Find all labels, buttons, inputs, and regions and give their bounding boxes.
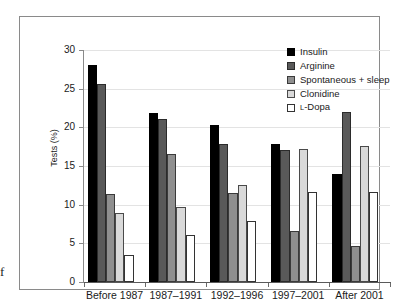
legend-label: L-Dopa bbox=[300, 102, 330, 113]
y-axis-tick-label: 30 bbox=[51, 45, 75, 55]
x-axis-category-label: Before 1987 bbox=[84, 289, 145, 301]
bar-arginine[interactable] bbox=[158, 119, 167, 282]
bar-l-dopa[interactable] bbox=[247, 221, 256, 282]
legend-label: Spontaneous + sleep bbox=[300, 75, 390, 85]
caption-fragment-text: f bbox=[0, 262, 14, 282]
bar-insulin[interactable] bbox=[88, 65, 97, 282]
chart-legend: InsulinArginineSpontaneous + sleepClonid… bbox=[287, 45, 397, 115]
bar-spontaneous-sleep[interactable] bbox=[290, 231, 299, 282]
x-axis-tick-mark bbox=[268, 283, 269, 287]
x-axis-category-label: 1987–1991 bbox=[145, 289, 206, 301]
x-axis-line bbox=[83, 282, 391, 283]
bar-l-dopa[interactable] bbox=[369, 192, 378, 282]
legend-swatch-icon bbox=[287, 62, 295, 70]
x-axis-category-label: 1997–2001 bbox=[268, 289, 329, 301]
x-axis-category-label: After 2001 bbox=[329, 289, 390, 301]
x-axis-tick-mark bbox=[84, 283, 85, 287]
bar-arginine[interactable] bbox=[97, 84, 106, 282]
bar-l-dopa[interactable] bbox=[308, 192, 317, 282]
legend-item-arginine[interactable]: Arginine bbox=[287, 59, 397, 72]
legend-item-clonidine[interactable]: Clonidine bbox=[287, 87, 397, 100]
bar-l-dopa[interactable] bbox=[186, 235, 195, 282]
x-axis-tick-mark bbox=[206, 283, 207, 287]
y-axis-tick-label: 25 bbox=[51, 84, 75, 94]
legend-item-l-dopa[interactable]: L-Dopa bbox=[287, 101, 397, 114]
bar-clonidine[interactable] bbox=[176, 207, 185, 282]
legend-label: Clonidine bbox=[300, 89, 340, 99]
bar-l-dopa[interactable] bbox=[124, 255, 133, 282]
bar-arginine[interactable] bbox=[219, 144, 228, 282]
legend-item-insulin[interactable]: Insulin bbox=[287, 45, 397, 58]
bar-spontaneous-sleep[interactable] bbox=[106, 194, 115, 282]
legend-swatch-icon bbox=[287, 76, 295, 84]
legend-swatch-icon bbox=[287, 104, 295, 112]
legend-item-spontaneous-sleep[interactable]: Spontaneous + sleep bbox=[287, 73, 397, 86]
bar-insulin[interactable] bbox=[271, 144, 280, 282]
y-axis-tick-label: 10 bbox=[51, 200, 75, 210]
legend-label: Insulin bbox=[300, 47, 327, 57]
bar-group bbox=[206, 50, 267, 282]
bar-group bbox=[145, 50, 206, 282]
figure-frame: 302520151050 Tests (%) Before 19871987–1… bbox=[19, 16, 380, 290]
legend-label: Arginine bbox=[300, 61, 335, 71]
bar-spontaneous-sleep[interactable] bbox=[167, 154, 176, 282]
bar-clonidine[interactable] bbox=[238, 185, 247, 282]
x-axis-tick-mark bbox=[145, 283, 146, 287]
legend-swatch-icon bbox=[287, 48, 295, 56]
legend-swatch-icon bbox=[287, 90, 295, 98]
bar-spontaneous-sleep[interactable] bbox=[351, 246, 360, 282]
y-axis-title: Tests (%) bbox=[49, 113, 59, 183]
x-axis-tick-mark bbox=[390, 283, 391, 287]
bar-insulin[interactable] bbox=[210, 125, 219, 282]
bar-clonidine[interactable] bbox=[360, 146, 369, 282]
bar-spontaneous-sleep[interactable] bbox=[228, 193, 237, 282]
bar-arginine[interactable] bbox=[280, 150, 289, 282]
bar-group bbox=[84, 50, 145, 282]
x-axis-tick-mark bbox=[329, 283, 330, 287]
y-axis-tick-label: 0 bbox=[51, 277, 75, 287]
bar-arginine[interactable] bbox=[342, 112, 351, 282]
bar-insulin[interactable] bbox=[149, 113, 158, 282]
bar-clonidine[interactable] bbox=[115, 213, 124, 282]
bar-insulin[interactable] bbox=[332, 174, 341, 282]
x-axis-category-label: 1992–1996 bbox=[206, 289, 267, 301]
bar-clonidine[interactable] bbox=[299, 149, 308, 282]
y-axis-tick-label: 5 bbox=[51, 238, 75, 248]
